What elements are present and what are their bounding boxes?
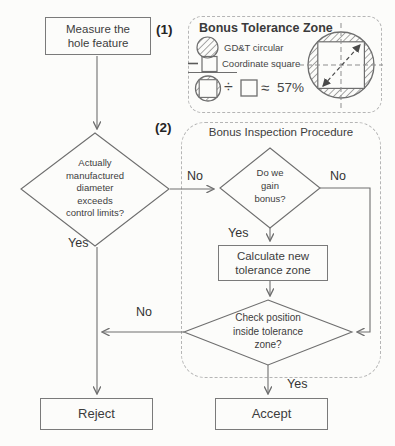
hatched-circle-icon bbox=[197, 37, 218, 58]
measure-step: Measure the hole feature bbox=[45, 17, 151, 55]
coordinate-square-label: Coordinate square bbox=[222, 58, 300, 69]
exceeds-decision-label: Actually manufactured diameter exceeds c… bbox=[35, 157, 155, 220]
flowchart-canvas: Measure the hole feature Calculate new t… bbox=[0, 0, 395, 446]
circle-square-icon bbox=[196, 76, 221, 101]
gain-yes-label: Yes bbox=[228, 226, 248, 240]
accept-terminal: Accept bbox=[215, 398, 328, 430]
check-no-label: No bbox=[136, 305, 152, 319]
gain-no-label: No bbox=[330, 169, 346, 183]
exceeds-yes-label: Yes bbox=[68, 236, 88, 250]
check-decision-label: Check position inside tolerance zone? bbox=[208, 311, 328, 352]
group1-badge: (1) bbox=[156, 22, 173, 37]
tolerance-zone-diagram bbox=[299, 23, 383, 108]
connector-layer bbox=[0, 0, 395, 446]
group2-badge: (2) bbox=[155, 120, 172, 135]
reject-terminal: Reject bbox=[40, 398, 153, 430]
gain-decision-label: Do we gain bonus? bbox=[238, 166, 302, 205]
divide-symbol: ÷ bbox=[224, 78, 233, 96]
dash-square-icon bbox=[202, 57, 217, 72]
procedure-title: Bonus Inspection Procedure bbox=[181, 126, 381, 138]
exceeds-no-label: No bbox=[187, 169, 203, 183]
square-icon bbox=[241, 80, 257, 96]
ratio-value: 57% bbox=[277, 80, 304, 95]
check-yes-label: Yes bbox=[287, 377, 307, 391]
gdt-circular-label: GD&T circular bbox=[224, 42, 283, 53]
approx-symbol: ≈ bbox=[261, 79, 269, 96]
legend-title: Bonus Tolerance Zone bbox=[199, 21, 333, 35]
calculate-step: Calculate new tolerance zone bbox=[218, 245, 328, 281]
